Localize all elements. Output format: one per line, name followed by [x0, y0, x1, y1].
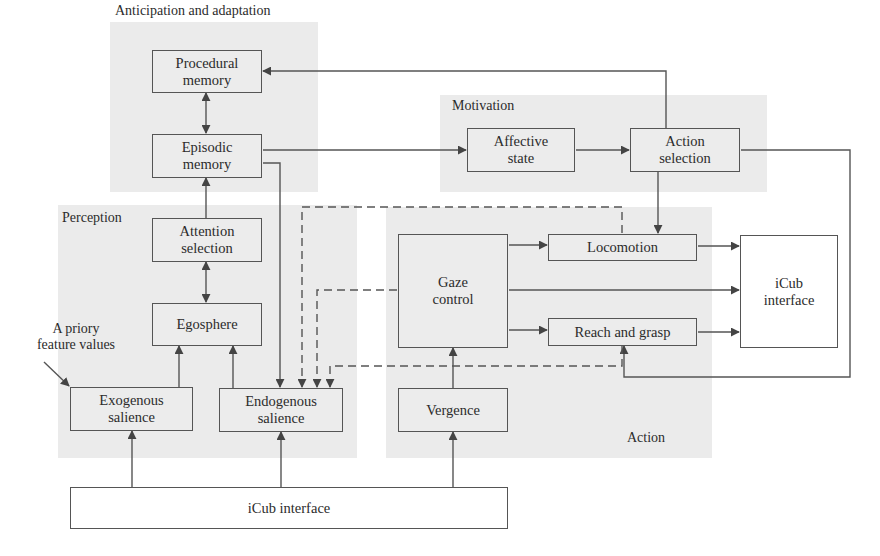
panel-label-perception: Perception [62, 210, 122, 226]
icub-interface-output-box: iCub interface [740, 235, 838, 348]
vergence-box: Vergence [398, 388, 508, 432]
locomotion-box: Locomotion [548, 234, 697, 261]
a-priori-feature-values-note: A priory feature values [26, 321, 126, 353]
endogenous-salience-box: Endogenous salience [219, 388, 343, 432]
episodic-memory-box: Episodic memory [152, 134, 262, 178]
action-selection-box: Action selection [630, 128, 740, 172]
attention-selection-box: Attention selection [152, 218, 262, 262]
gaze-control-box: Gaze control [398, 234, 508, 348]
panel-label-motivation: Motivation [452, 98, 514, 114]
exogenous-salience-box: Exogenous salience [70, 387, 193, 431]
reach-and-grasp-box: Reach and grasp [548, 318, 697, 346]
panel-label-anticipation: Anticipation and adaptation [115, 3, 271, 19]
panel-label-action: Action [627, 430, 665, 446]
affective-state-box: Affective state [467, 128, 575, 172]
egosphere-box: Egosphere [152, 303, 262, 346]
procedural-memory-box: Procedural memory [152, 50, 262, 93]
icub-interface-input-box: iCub interface [70, 487, 508, 529]
